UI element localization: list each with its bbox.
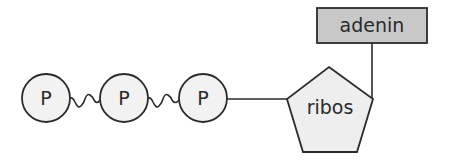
adenine-label: adenin <box>340 14 405 36</box>
phosphate-3: P <box>179 74 227 122</box>
atp-diagram: P P P ribos adenin <box>0 0 450 164</box>
phosphate-2: P <box>100 74 148 122</box>
adenine-box: adenin <box>317 8 427 43</box>
high-energy-bond-2 <box>148 95 179 107</box>
high-energy-bond-1 <box>70 95 100 107</box>
phosphate-label: P <box>118 87 129 109</box>
phosphate-1: P <box>22 74 70 122</box>
ribose-pentagon: ribos <box>287 67 373 152</box>
phosphate-label: P <box>197 87 208 109</box>
ribose-label: ribos <box>307 96 354 118</box>
phosphate-label: P <box>40 87 51 109</box>
